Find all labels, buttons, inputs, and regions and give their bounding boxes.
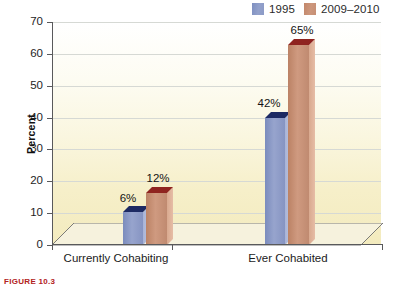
bar-ever-cohabited-1995 xyxy=(265,111,285,245)
x-axis-line xyxy=(52,244,383,245)
value-label-currently-cohabiting-2009-2010: 12% xyxy=(139,172,177,184)
value-label-currently-cohabiting-1995: 6% xyxy=(111,192,145,204)
plot-area xyxy=(52,22,381,244)
y-tick-10 xyxy=(47,213,52,214)
x-category-label-currently-cohabiting: Currently Cohabiting xyxy=(56,252,176,264)
gridline-70 xyxy=(52,22,381,23)
y-tick-label-10: 10 xyxy=(3,206,43,218)
gridline-20 xyxy=(52,181,381,182)
x-tick-start xyxy=(52,244,53,250)
value-label-ever-cohabited-1995: 42% xyxy=(250,97,288,109)
y-tick-20 xyxy=(47,181,52,182)
x-category-label-ever-cohabited: Ever Cohabited xyxy=(228,252,348,264)
value-label-ever-cohabited-2009-2010: 65% xyxy=(283,24,321,36)
y-axis-title: Percent xyxy=(25,94,37,174)
x-tick-middle xyxy=(172,244,173,250)
y-tick-label-30: 30 xyxy=(3,142,43,154)
y-tick-60 xyxy=(47,54,52,55)
figure-caption: FIGURE 10.3 xyxy=(4,277,55,286)
y-tick-30 xyxy=(47,149,52,150)
y-tick-label-70: 70 xyxy=(3,15,43,27)
y-tick-label-0: 0 xyxy=(3,238,43,250)
legend-item-1995: 1995 xyxy=(252,3,295,15)
gridline-40 xyxy=(52,118,381,119)
y-tick-label-20: 20 xyxy=(3,174,43,186)
legend-item-2009-2010: 2009–2010 xyxy=(304,3,379,15)
chart-floor-3d xyxy=(52,223,383,245)
y-axis-line xyxy=(52,22,53,245)
y-tick-label-60: 60 xyxy=(3,47,43,59)
gridline-30 xyxy=(52,149,381,150)
y-tick-label-50: 50 xyxy=(3,79,43,91)
chart-legend: 1995 2009–2010 xyxy=(252,3,379,15)
y-tick-label-40: 40 xyxy=(3,111,43,123)
legend-swatch-icon-2009-2010 xyxy=(304,3,316,15)
bar-currently-cohabiting-2009-2010 xyxy=(146,186,168,245)
y-tick-40 xyxy=(47,118,52,119)
x-tick-end xyxy=(382,244,383,250)
bar-ever-cohabited-2009-2010 xyxy=(288,38,310,245)
y-tick-50 xyxy=(47,86,52,87)
legend-label-2009-2010: 2009–2010 xyxy=(321,3,379,15)
gridline-50 xyxy=(52,86,381,87)
legend-label-1995: 1995 xyxy=(269,3,295,15)
gridline-60 xyxy=(52,54,381,55)
legend-swatch-icon-1995 xyxy=(252,3,264,15)
bar-currently-cohabiting-1995 xyxy=(123,205,143,245)
y-tick-70 xyxy=(47,22,52,23)
gridline-10 xyxy=(52,213,381,214)
